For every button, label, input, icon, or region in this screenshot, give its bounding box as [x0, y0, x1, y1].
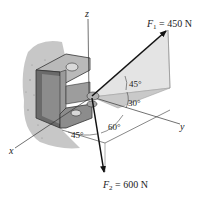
force-f2-label: F2 = 600 N: [102, 179, 148, 192]
bolt-head: [66, 63, 78, 71]
y-axis-label: y: [179, 121, 185, 132]
force-f2-arrow: [92, 98, 104, 172]
angle-label-45-lower: 45°: [71, 130, 84, 140]
force-f1-label: F1 = 450 N: [146, 18, 192, 31]
force-diagram: z y x F1 = 450 N F2 = 600 N 45° 30° 60° …: [0, 0, 202, 202]
bracket: [36, 54, 92, 128]
angle-label-30: 30°: [128, 98, 141, 108]
angle-label-45-upper: 45°: [129, 79, 142, 89]
x-axis-label: x: [8, 145, 14, 156]
bolt-lower: [71, 110, 81, 116]
z-axis-label: z: [84, 8, 89, 19]
angle-label-60: 60°: [108, 122, 121, 132]
